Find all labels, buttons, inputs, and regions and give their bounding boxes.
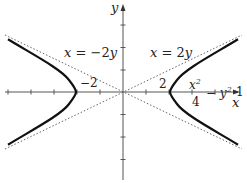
tick-label-pos-two: 2: [159, 78, 167, 90]
equation-denominator: 4: [192, 96, 200, 108]
equation-minus-term: − y2: [206, 86, 232, 99]
hyperbola-diagram: y x −2 2 x = −2y x = 2y x2 4 − y2 1: [0, 0, 247, 183]
asymptote-label-neg: x = −2y: [64, 46, 117, 59]
equation-numerator: x2: [189, 78, 201, 91]
equation-rhs: 1: [236, 86, 244, 98]
tick-label-neg-two: −2: [80, 77, 98, 89]
y-axis-label: y: [111, 1, 118, 14]
y-axis-arrow-icon: [121, 4, 126, 11]
asymptote-label-pos: x = 2y: [150, 46, 192, 59]
